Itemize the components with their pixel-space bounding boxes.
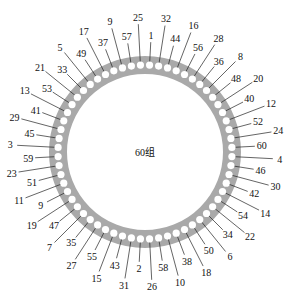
slot-dot (119, 232, 126, 239)
slot-label: 41 (31, 105, 41, 116)
slot-dot (74, 94, 81, 101)
slot-dot (80, 87, 87, 94)
slot-dot (181, 226, 188, 233)
slot-label: 43 (110, 260, 120, 271)
slot-dot (189, 221, 196, 228)
slot-label: 25 (133, 12, 143, 23)
slot-label: 58 (158, 262, 168, 273)
slot-label: 15 (92, 273, 102, 284)
slot-label: 50 (204, 245, 214, 256)
slot-dot (203, 210, 210, 217)
slot-dot (94, 75, 101, 82)
slot-label: 17 (79, 26, 89, 37)
slot-label: 3 (8, 139, 13, 150)
slot-label: 40 (244, 93, 254, 104)
slot-dot (228, 144, 235, 151)
slot-dot (196, 81, 203, 88)
slot-label: 42 (249, 188, 259, 199)
slot-label: 47 (49, 220, 59, 231)
slot-label: 11 (14, 195, 24, 206)
slot-label: 44 (170, 33, 180, 44)
slot-dot (164, 232, 171, 239)
slot-label: 24 (273, 125, 283, 136)
slot-dot (128, 62, 135, 69)
slot-label: 48 (231, 73, 241, 84)
slot-dot (119, 64, 126, 71)
slot-dot (173, 67, 180, 74)
slot-label: 29 (10, 112, 20, 123)
slot-label: 9 (108, 16, 113, 27)
slot-label: 20 (253, 73, 263, 84)
slot-dot (146, 235, 153, 242)
slot-dot (60, 180, 67, 187)
slot-dot (94, 221, 101, 228)
slot-label: 27 (66, 260, 76, 271)
slot-dot (64, 109, 71, 116)
slot-label: 60 (257, 140, 267, 151)
slot-label: 18 (201, 267, 211, 278)
slot-dot (219, 109, 226, 116)
slot-dot (214, 196, 221, 203)
slot-label: 53 (42, 83, 52, 94)
slot-label: 13 (20, 85, 30, 96)
slot-dot (110, 230, 117, 237)
slot-label: 38 (182, 256, 192, 267)
slot-label: 5 (58, 42, 63, 53)
slot-label: 52 (253, 116, 263, 127)
slot-dot (173, 230, 180, 237)
center-label: 60组 (120, 144, 170, 159)
slot-dot (146, 62, 153, 69)
slot-dot (225, 126, 232, 133)
slot-label: 59 (23, 153, 33, 164)
slot-label: 7 (47, 242, 52, 253)
slot-label: 8 (238, 51, 243, 62)
slot-dot (68, 101, 75, 108)
slot-label: 22 (245, 231, 255, 242)
slot-dot (102, 71, 109, 78)
slot-label: 31 (119, 280, 129, 291)
slot-dot (57, 171, 64, 178)
slot-label: 4 (277, 154, 282, 165)
slot-label: 19 (27, 220, 37, 231)
slot-dot (209, 203, 216, 210)
slot-label: 51 (27, 177, 37, 188)
slot-dot (57, 126, 64, 133)
slot-dot (155, 234, 162, 241)
slot-dot (137, 62, 144, 69)
slot-label: 55 (87, 251, 97, 262)
slot-label: 46 (256, 165, 266, 176)
slot-dot (164, 64, 171, 71)
slot-dot (223, 117, 230, 124)
slot-dot (196, 216, 203, 223)
slot-label: 21 (35, 62, 45, 73)
slot-label: 14 (260, 208, 270, 219)
slot-dot (110, 67, 117, 74)
slot-label: 33 (57, 64, 67, 75)
slot-label: 57 (122, 31, 132, 42)
slot-dot (225, 171, 232, 178)
slot-dot (209, 94, 216, 101)
slot-label: 12 (266, 98, 276, 109)
slot-dot (87, 216, 94, 223)
slot-dot (60, 117, 67, 124)
slot-label: 34 (223, 229, 233, 240)
slot-label: 6 (227, 251, 232, 262)
slot-dot (55, 162, 62, 169)
slot-dot (137, 235, 144, 242)
slot-dot (55, 135, 62, 142)
slot-dot (74, 203, 81, 210)
slot-dot (128, 234, 135, 241)
slot-label: 35 (66, 237, 76, 248)
slot-label: 1 (149, 30, 154, 41)
slot-label: 23 (7, 168, 17, 179)
slot-label: 30 (270, 181, 280, 192)
slot-label: 28 (214, 33, 224, 44)
slot-dot (64, 188, 71, 195)
slot-dot (227, 135, 234, 142)
slot-dot (55, 153, 62, 160)
slot-dot (102, 226, 109, 233)
slot-dot (219, 188, 226, 195)
slot-dot (87, 81, 94, 88)
slot-label: 56 (193, 42, 203, 53)
slot-label: 49 (76, 48, 86, 59)
